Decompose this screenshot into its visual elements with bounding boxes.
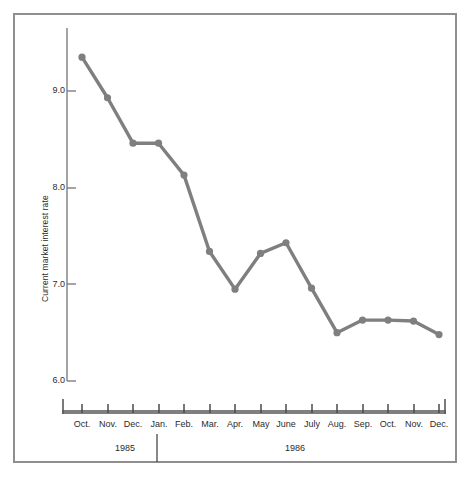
data-point-nov-13 (410, 317, 417, 324)
data-point-feb-4 (180, 172, 187, 179)
chart-svg (0, 0, 474, 479)
data-point-oct-0 (78, 54, 85, 61)
data-point-dec-14 (435, 331, 442, 338)
data-point-may-7 (257, 250, 264, 257)
data-series-line (82, 57, 439, 334)
data-point-mar-5 (206, 248, 213, 255)
data-point-oct-12 (384, 317, 391, 324)
chart-plot-area: Current market interest rate 9.0 8.0 7.0… (0, 0, 474, 479)
data-point-dec-2 (129, 140, 136, 147)
data-point-jan-3 (155, 140, 162, 147)
data-point-aug-10 (333, 329, 340, 336)
data-point-nov-1 (104, 94, 111, 101)
data-point-july-9 (308, 285, 315, 292)
data-point-june-8 (282, 239, 289, 246)
data-point-apr-6 (231, 286, 238, 293)
data-point-sep-11 (359, 317, 366, 324)
data-point-markers (78, 54, 442, 339)
